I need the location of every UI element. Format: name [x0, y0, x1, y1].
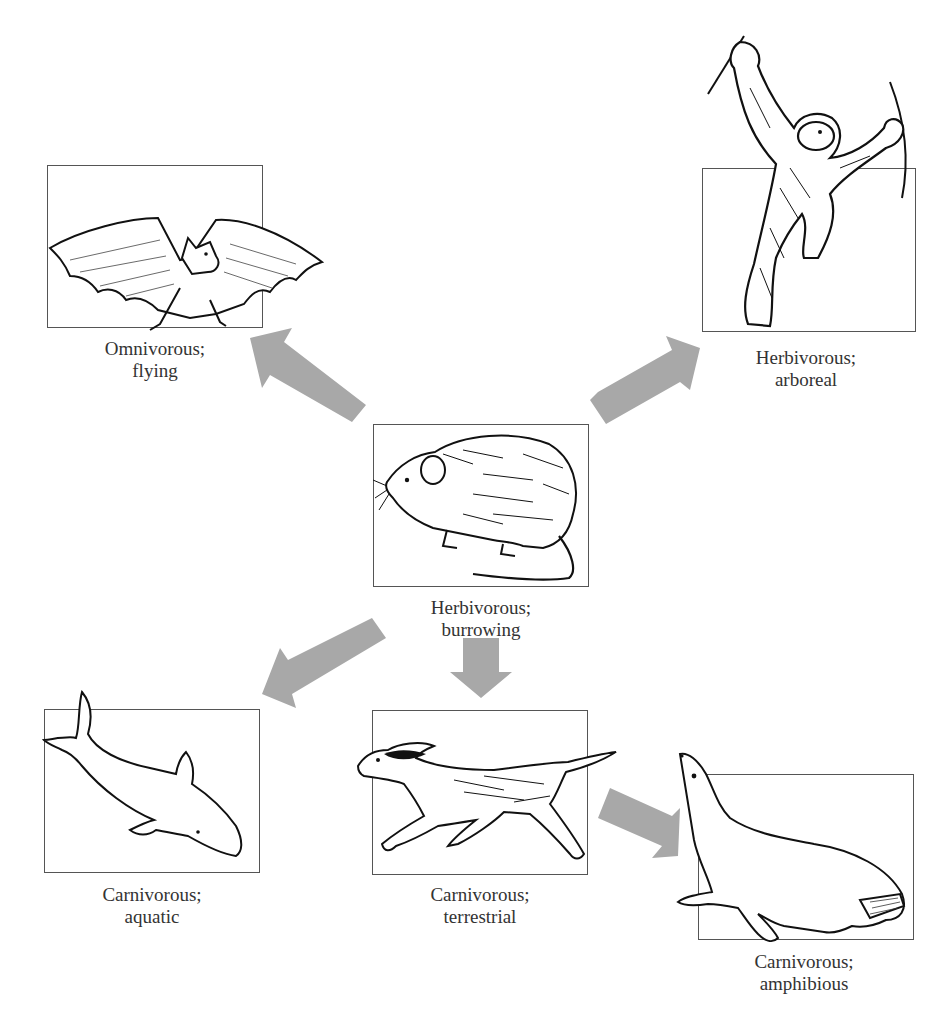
bat-label-line1: Omnivorous; — [55, 338, 255, 360]
arrow-to-dolphin — [262, 618, 386, 708]
rodent-label-line2: burrowing — [381, 619, 581, 641]
sealion-illustration — [674, 750, 924, 950]
sealion-label: Carnivorous; amphibious — [704, 951, 904, 995]
dolphin-label-line2: aquatic — [52, 906, 252, 928]
bat-label-line2: flying — [55, 360, 255, 382]
rodent-label-line1: Herbivorous; — [381, 597, 581, 619]
bat-illustration — [40, 200, 340, 340]
dog-illustration — [354, 740, 624, 870]
arrow-to-chimp — [590, 336, 700, 424]
chimp-label-line1: Herbivorous; — [706, 347, 906, 369]
rodent-label: Herbivorous; burrowing — [381, 597, 581, 641]
bat-label: Omnivorous; flying — [55, 338, 255, 382]
dolphin-label-line1: Carnivorous; — [52, 884, 252, 906]
dolphin-illustration — [40, 686, 260, 866]
dog-label-line2: terrestrial — [380, 906, 580, 928]
rodent-illustration — [373, 424, 589, 587]
dolphin-label: Carnivorous; aquatic — [52, 884, 252, 928]
chimpanzee-illustration — [690, 28, 920, 338]
sealion-label-line2: amphibious — [704, 973, 904, 995]
dog-label: Carnivorous; terrestrial — [380, 884, 580, 928]
arrow-to-bat — [250, 328, 366, 422]
sealion-label-line1: Carnivorous; — [704, 951, 904, 973]
arrow-to-dog — [450, 638, 512, 698]
chimp-label-line2: arboreal — [706, 369, 906, 391]
dog-label-line1: Carnivorous; — [380, 884, 580, 906]
chimp-label: Herbivorous; arboreal — [706, 347, 906, 391]
